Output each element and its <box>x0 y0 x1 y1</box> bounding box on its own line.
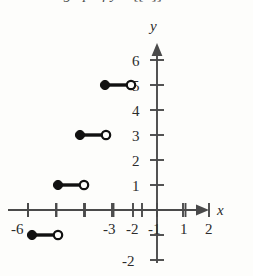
step-segment-y1 <box>53 180 88 189</box>
y-axis-label: y <box>148 18 157 34</box>
y-tick-label-3: 3 <box>132 128 140 144</box>
step-function-plot: x y <box>0 13 253 276</box>
y-tick-label-4: 4 <box>132 103 140 119</box>
closed-endpoint-dot <box>53 180 62 189</box>
x-tick-label-2: 2 <box>205 221 213 237</box>
open-endpoint-dot <box>102 131 110 139</box>
figure-canvas: same thing up of y [[x]] x y <box>0 0 253 276</box>
open-endpoint-dot <box>54 231 62 239</box>
closed-endpoint-dot <box>75 130 84 139</box>
closed-endpoint-dot <box>100 80 109 89</box>
x-axis <box>8 205 209 216</box>
y-tick-label-6: 6 <box>132 53 140 69</box>
cropped-caption-strip: same thing up of y [[x]] <box>0 0 253 13</box>
x-axis-label: x <box>216 202 224 218</box>
y-tick-label-1: 1 <box>132 178 140 194</box>
closed-endpoint-dot <box>27 230 36 239</box>
step-segment-y-1 <box>27 230 62 239</box>
x-tick-label--3: -3 <box>103 221 116 237</box>
open-endpoint-dot <box>127 81 135 89</box>
x-tick-label--2: -2 <box>126 221 139 237</box>
step-segment-y3 <box>75 130 110 139</box>
plot-svg: x y <box>0 13 253 276</box>
cropped-caption-bracket: [[x]] <box>133 0 161 2</box>
y-axis-arrowhead <box>152 43 163 56</box>
x-tick-label-1: 1 <box>180 221 188 237</box>
y-tick-label--2: -2 <box>122 253 135 269</box>
x-tick-label--6: -6 <box>11 221 24 237</box>
y-tick-label-2: 2 <box>132 153 140 169</box>
cropped-caption-words: same thing up of y <box>4 0 118 2</box>
step-segment-y5 <box>100 80 135 89</box>
cropped-caption-text: same thing up of y [[x]] <box>4 0 253 3</box>
x-axis-arrowhead <box>196 205 209 216</box>
open-endpoint-dot <box>80 181 88 189</box>
